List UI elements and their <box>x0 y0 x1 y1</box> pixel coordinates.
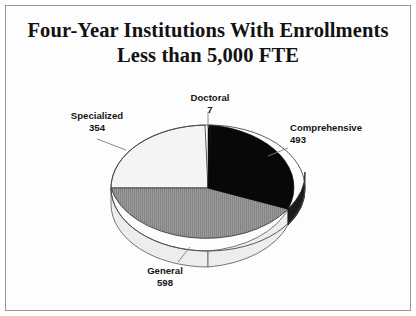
pie-label-general-name: General <box>147 265 183 276</box>
pie-label-specialized-value: 354 <box>44 122 150 134</box>
leader-line-specialized <box>97 139 126 150</box>
chart-figure: Four-Year Institutions With Enrollments … <box>0 0 416 316</box>
pie-label-specialized: Specialized 354 <box>44 110 150 133</box>
pie-label-doctoral-name: Doctoral <box>191 92 230 103</box>
pie-label-doctoral-value: 7 <box>155 104 265 116</box>
pie-label-specialized-name: Specialized <box>71 110 123 121</box>
pie-slice-specialized <box>111 125 208 188</box>
pie-label-general: General 598 <box>110 265 220 288</box>
pie-label-comprehensive-name: Comprehensive <box>290 122 362 133</box>
pie-label-comprehensive-value: 493 <box>290 134 406 146</box>
pie-label-comprehensive: Comprehensive 493 <box>290 122 406 145</box>
pie-label-general-value: 598 <box>110 277 220 289</box>
pie-label-doctoral: Doctoral 7 <box>155 92 265 115</box>
